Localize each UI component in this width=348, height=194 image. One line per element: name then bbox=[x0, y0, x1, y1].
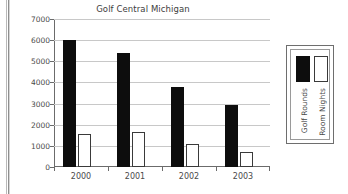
x-axis-tick-label-2003: 2003 bbox=[223, 172, 263, 181]
gridline bbox=[54, 61, 270, 62]
plot-area bbox=[54, 19, 270, 167]
x-axis-tick-label-2002: 2002 bbox=[169, 172, 209, 181]
bar-golf-rounds-2000 bbox=[63, 40, 76, 167]
bar-golf-rounds-2001 bbox=[117, 53, 130, 167]
bar-room-nights-2003 bbox=[240, 152, 253, 167]
legend-inner-border: Golf RoundsRoom Nights bbox=[290, 49, 330, 140]
x-axis-tick-mark bbox=[54, 167, 55, 171]
legend-entry-golf-rounds: Golf Rounds bbox=[296, 56, 312, 140]
x-axis-tick-mark bbox=[162, 167, 163, 171]
scan-edge-artifact bbox=[0, 0, 14, 194]
gridline bbox=[54, 19, 270, 20]
legend-label-golf-rounds: Golf Rounds bbox=[300, 88, 314, 140]
legend-swatch-room-nights bbox=[314, 56, 328, 82]
bar-room-nights-2001 bbox=[132, 132, 145, 167]
bar-room-nights-2002 bbox=[186, 144, 199, 167]
scan-edge-line-3 bbox=[9, 0, 10, 194]
gridline bbox=[54, 40, 270, 41]
x-axis-tick-label-2001: 2001 bbox=[115, 172, 155, 181]
chart-title: Golf Central Michigan bbox=[14, 4, 272, 14]
x-axis-tick-mark bbox=[216, 167, 217, 171]
bar-room-nights-2000 bbox=[78, 134, 91, 167]
chart-legend: Golf RoundsRoom Nights bbox=[286, 45, 334, 144]
bar-golf-rounds-2002 bbox=[171, 87, 184, 167]
legend-label-room-nights: Room Nights bbox=[318, 88, 332, 140]
bar-golf-rounds-2003 bbox=[225, 105, 238, 167]
x-axis-tick-labels: 2000200120022003 bbox=[54, 172, 270, 186]
bar-chart: Golf Central Michigan 010002000300040005… bbox=[14, 0, 348, 194]
legend-swatch-golf-rounds bbox=[296, 56, 310, 82]
x-axis-tick-mark bbox=[108, 167, 109, 171]
scan-edge-line-1 bbox=[6, 0, 7, 194]
x-axis-tick-mark bbox=[269, 167, 270, 171]
y-axis-tick-marks bbox=[14, 19, 54, 167]
x-axis-tick-label-2000: 2000 bbox=[61, 172, 101, 181]
gridline bbox=[54, 82, 270, 83]
legend-entry-room-nights: Room Nights bbox=[314, 56, 330, 140]
